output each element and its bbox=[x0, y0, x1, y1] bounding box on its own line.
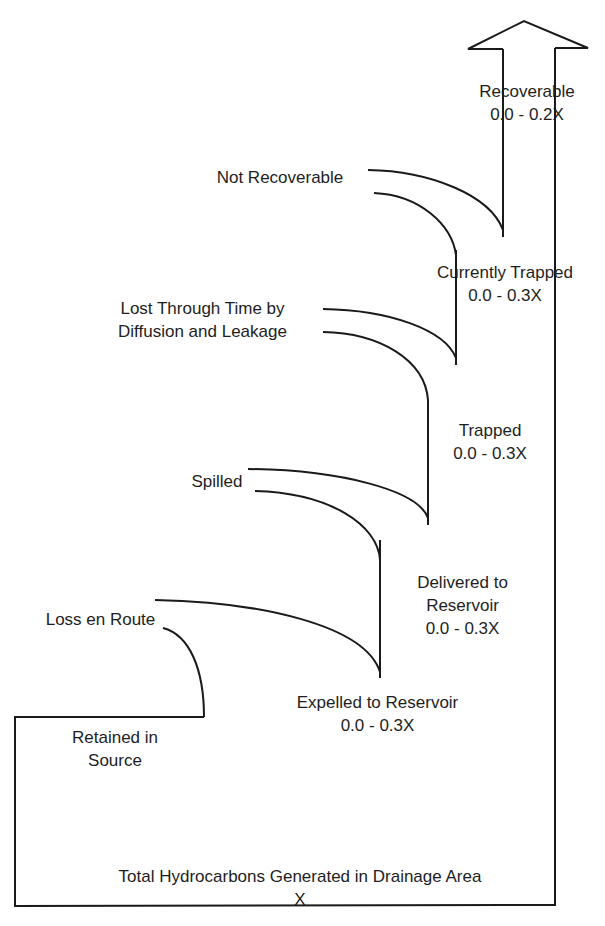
recoverable-label: Recoverable 0.0 - 0.2X bbox=[462, 80, 592, 126]
lost-time-lower-curve bbox=[323, 332, 428, 453]
not-recoverable-upper-curve bbox=[368, 170, 503, 237]
not-recoverable-title: Not Recoverable bbox=[195, 166, 365, 189]
total-generated-value: X bbox=[60, 888, 540, 911]
currently-trapped-value: 0.0 - 0.3X bbox=[415, 284, 595, 307]
spilled-label: Spilled bbox=[182, 470, 252, 493]
lost-through-time-label: Lost Through Time by Diffusion and Leaka… bbox=[95, 297, 310, 343]
spilled-upper-curve bbox=[248, 469, 428, 525]
lost-through-time-line2: Diffusion and Leakage bbox=[95, 320, 310, 343]
trapped-title: Trapped bbox=[435, 419, 545, 442]
not-recoverable-label: Not Recoverable bbox=[195, 166, 365, 189]
trapped-label: Trapped 0.0 - 0.3X bbox=[435, 419, 545, 465]
lost-through-time-line1: Lost Through Time by bbox=[95, 297, 310, 320]
total-generated-title: Total Hydrocarbons Generated in Drainage… bbox=[60, 865, 540, 888]
currently-trapped-label: Currently Trapped 0.0 - 0.3X bbox=[415, 261, 595, 307]
delivered-line1: Delivered to bbox=[400, 571, 525, 594]
total-generated-label: Total Hydrocarbons Generated in Drainage… bbox=[60, 865, 540, 911]
delivered-value: 0.0 - 0.3X bbox=[400, 617, 525, 640]
delivered-label: Delivered to Reservoir 0.0 - 0.3X bbox=[400, 571, 525, 640]
delivered-line2: Reservoir bbox=[400, 594, 525, 617]
retained-label: Retained in Source bbox=[55, 726, 175, 772]
spilled-title: Spilled bbox=[182, 470, 252, 493]
up-arrow-icon bbox=[468, 21, 588, 49]
expelled-value: 0.0 - 0.3X bbox=[270, 714, 485, 737]
recoverable-value: 0.0 - 0.2X bbox=[462, 103, 592, 126]
loss-en-route-label: Loss en Route bbox=[28, 608, 173, 631]
expelled-title: Expelled to Reservoir bbox=[270, 691, 485, 714]
currently-trapped-title: Currently Trapped bbox=[415, 261, 595, 284]
expelled-label: Expelled to Reservoir 0.0 - 0.3X bbox=[270, 691, 485, 737]
loss-en-route-upper-curve bbox=[155, 600, 380, 678]
loss-en-route-title: Loss en Route bbox=[28, 608, 173, 631]
spilled-lower-curve bbox=[255, 491, 380, 580]
loss-en-route-lower-curve bbox=[163, 628, 204, 717]
retained-line1: Retained in bbox=[55, 726, 175, 749]
recoverable-title: Recoverable bbox=[462, 80, 592, 103]
trapped-value: 0.0 - 0.3X bbox=[435, 442, 545, 465]
retained-line2: Source bbox=[55, 749, 175, 772]
lost-time-upper-curve bbox=[323, 309, 456, 365]
